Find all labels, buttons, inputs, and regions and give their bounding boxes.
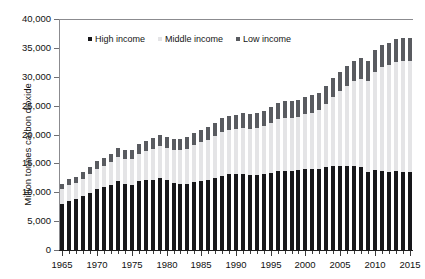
bar-segment-middle-income <box>338 91 342 165</box>
bar-segment-middle-income <box>178 150 182 184</box>
bar-segment-low-income <box>102 158 106 166</box>
bar-segment-low-income <box>130 150 134 159</box>
bar-segment-high-income <box>324 167 328 250</box>
x-axis-minor-tick <box>125 251 126 254</box>
x-axis-minor-tick <box>229 251 230 254</box>
legend-item: High income <box>88 34 145 44</box>
bar-segment-middle-income <box>366 81 370 172</box>
x-axis-minor-tick <box>139 251 140 254</box>
bar-segment-low-income <box>359 58 363 79</box>
bar-segment-low-income <box>144 141 148 151</box>
bar-segment-high-income <box>109 185 113 250</box>
bar-column <box>151 19 155 250</box>
bar-column <box>95 19 99 250</box>
bar-column <box>102 19 106 250</box>
bar-column <box>352 19 356 250</box>
x-axis-tick-label: 2015 <box>390 259 425 270</box>
bar-segment-middle-income <box>345 86 349 166</box>
bar-segment-middle-income <box>290 118 294 171</box>
bar-segment-low-income <box>296 100 300 117</box>
bar-column <box>366 19 370 250</box>
x-axis-minor-tick <box>312 251 313 254</box>
bar-segment-middle-income <box>199 142 203 181</box>
bar-segment-middle-income <box>123 159 127 184</box>
x-axis-minor-tick <box>319 251 320 254</box>
x-axis-major-tick <box>132 251 133 256</box>
bar-segment-low-income <box>241 113 245 128</box>
bar-segment-middle-income <box>331 97 335 166</box>
x-axis-tick-label: 1970 <box>77 259 117 270</box>
bar-segment-middle-income <box>158 146 162 178</box>
bar-segment-high-income <box>269 173 273 250</box>
x-axis-minor-tick <box>368 251 369 254</box>
bar-segment-high-income <box>283 171 287 250</box>
x-axis-minor-tick <box>160 251 161 254</box>
bar-column <box>408 19 412 250</box>
bar-column <box>338 19 342 250</box>
y-axis-tick-label: 20,000 <box>0 130 51 140</box>
y-axis-tick-label: 5,000 <box>0 216 51 226</box>
bar-segment-middle-income <box>185 149 189 184</box>
bar-segment-middle-income <box>408 61 412 172</box>
bar-segment-low-income <box>60 184 64 190</box>
bar-segment-high-income <box>102 187 106 250</box>
bar-segment-low-income <box>151 138 155 149</box>
bar-segment-low-income <box>95 161 99 169</box>
x-axis-tick-label: 1990 <box>216 259 256 270</box>
bar-segment-middle-income <box>60 189 64 203</box>
x-axis-tick-label: 1965 <box>42 259 82 270</box>
x-axis-major-tick <box>97 251 98 256</box>
bar-segment-low-income <box>387 43 391 66</box>
bar-column <box>60 19 64 250</box>
bar-segment-low-income <box>165 137 169 148</box>
x-axis-tick-label: 1985 <box>181 259 221 270</box>
x-axis-major-tick <box>305 251 306 256</box>
bar-segment-middle-income <box>74 183 78 199</box>
bar-column <box>283 19 287 250</box>
bar-segment-high-income <box>234 174 238 250</box>
bar-segment-high-income <box>130 185 134 250</box>
legend-label: Low income <box>243 34 291 44</box>
bar-segment-high-income <box>408 172 412 250</box>
y-axis-tick-label: 40,000 <box>0 14 51 24</box>
bar-segment-low-income <box>310 95 314 112</box>
bar-segment-low-income <box>338 72 342 91</box>
bar-segment-high-income <box>248 175 252 250</box>
bar-segment-low-income <box>109 154 113 162</box>
x-axis-minor-tick <box>396 251 397 254</box>
bar-column <box>137 19 141 250</box>
x-axis-minor-tick <box>243 251 244 254</box>
bar-segment-middle-income <box>269 123 273 173</box>
y-axis-tick-label: 0 <box>0 245 51 255</box>
bar-segment-high-income <box>290 171 294 250</box>
x-axis-minor-tick <box>111 251 112 254</box>
bar-column <box>206 19 210 250</box>
bar-segment-middle-income <box>151 149 155 180</box>
bar-segment-low-income <box>324 86 328 104</box>
bar-column <box>317 19 321 250</box>
bar-column <box>81 19 85 250</box>
bar-column <box>269 19 273 250</box>
y-axis-tick-label: 25,000 <box>0 101 51 111</box>
bar-segment-low-income <box>317 93 321 111</box>
bar-column <box>116 19 120 250</box>
bars-layer <box>59 19 413 250</box>
bar-segment-low-income <box>394 39 398 62</box>
bar-segment-middle-income <box>248 129 252 175</box>
bar-segment-middle-income <box>296 117 300 171</box>
x-axis-minor-tick <box>118 251 119 254</box>
bar-segment-low-income <box>172 139 176 150</box>
bar-segment-high-income <box>192 182 196 250</box>
bar-segment-low-income <box>401 38 405 61</box>
bar-segment-middle-income <box>352 81 356 165</box>
x-axis-minor-tick <box>354 251 355 254</box>
bar-segment-high-income <box>88 193 92 250</box>
bar-column <box>88 19 92 250</box>
bar-column <box>380 19 384 250</box>
bar-segment-high-income <box>345 166 349 250</box>
bar-segment-low-income <box>303 97 307 114</box>
bar-segment-high-income <box>331 166 335 250</box>
bar-segment-low-income <box>220 118 224 132</box>
chart-legend: High incomeMiddle incomeLow income <box>88 34 291 44</box>
bar-segment-high-income <box>123 184 127 250</box>
